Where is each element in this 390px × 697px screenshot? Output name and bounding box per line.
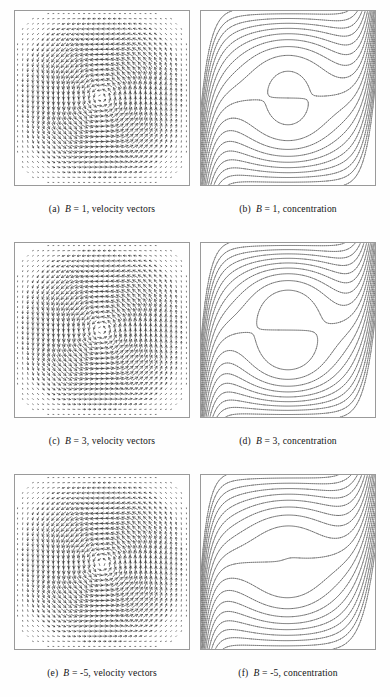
panel-wrap-a: (a) B = 1, velocity vectors [14,10,190,186]
figure-row-1: (a) B = 1, velocity vectors(b) B = 1, co… [0,0,390,232]
caption-a: (a) B = 1, velocity vectors [14,202,190,215]
velocity-vector-field [15,11,189,185]
caption-symbol-e: B [63,667,69,678]
panel-wrap-d: (d) B = 3, concentration [200,242,376,418]
panel-c-vector [14,242,190,418]
caption-symbol-a: B [65,203,71,214]
caption-c: (c) B = 3, velocity vectors [14,434,190,447]
figure-panel-grid: (a) B = 1, velocity vectors(b) B = 1, co… [0,0,390,697]
caption-tag-b: (b) [239,203,251,214]
panel-b-contour [200,10,376,186]
caption-text-f: = -5, concentration [262,667,338,678]
caption-e: (e) B = -5, velocity vectors [14,666,190,679]
caption-text-c: = 3, velocity vectors [74,435,156,446]
caption-d: (d) B = 3, concentration [200,434,376,447]
caption-text-a: = 1, velocity vectors [74,203,156,214]
panel-d-contour [200,242,376,418]
velocity-vector-field [15,475,189,649]
panel-e-vector [14,474,190,650]
panel-a-vector [14,10,190,186]
concentration-contours [201,11,375,185]
velocity-vector-field [15,243,189,417]
caption-tag-f: (f) [238,667,248,678]
panel-wrap-b: (b) B = 1, concentration [200,10,376,186]
concentration-contours [201,475,375,649]
caption-tag-a: (a) [49,203,60,214]
caption-symbol-c: B [65,435,71,446]
caption-text-d: = 3, concentration [265,435,337,446]
caption-text-b: = 1, concentration [265,203,337,214]
figure-row-3: (e) B = -5, velocity vectors(f) B = -5, … [0,464,390,696]
caption-tag-e: (e) [47,667,58,678]
panel-wrap-e: (e) B = -5, velocity vectors [14,474,190,650]
panel-wrap-c: (c) B = 3, velocity vectors [14,242,190,418]
caption-symbol-b: B [256,203,262,214]
panel-f-contour [200,474,376,650]
figure-row-2: (c) B = 3, velocity vectors(d) B = 3, co… [0,232,390,464]
caption-f: (f) B = -5, concentration [200,666,376,679]
caption-symbol-f: B [253,667,259,678]
caption-tag-d: (d) [239,435,251,446]
caption-text-e: = -5, velocity vectors [72,667,157,678]
caption-symbol-d: B [256,435,262,446]
caption-tag-c: (c) [49,435,60,446]
caption-b: (b) B = 1, concentration [200,202,376,215]
panel-wrap-f: (f) B = -5, concentration [200,474,376,650]
concentration-contours [201,243,375,417]
